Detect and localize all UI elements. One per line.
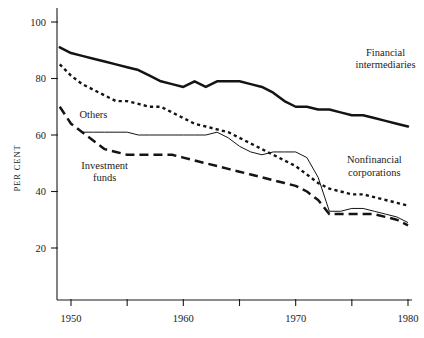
y-axis-ticks: 20406080100: [30, 17, 58, 254]
annotation-line-2: funds: [93, 172, 116, 183]
annotation-line-2: intermediaries: [356, 59, 416, 70]
y-tick-label: 60: [36, 130, 47, 141]
chart-container: 20406080100 1950196019701980 Financialin…: [0, 0, 424, 338]
annotation-line-1: Nonfinancial: [347, 154, 402, 165]
annotation-line-1: Investment: [81, 160, 128, 171]
annotation-line-1: Financial: [366, 47, 405, 58]
data-series-group: [60, 47, 408, 225]
y-tick-label: 80: [36, 73, 47, 84]
line-chart: 20406080100 1950196019701980 Financialin…: [0, 0, 424, 338]
y-tick-label: 40: [36, 186, 47, 197]
y-tick-label: 100: [30, 17, 46, 28]
x-tick-label: 1960: [173, 313, 194, 324]
annotation-line-2: corporations: [348, 167, 401, 178]
y-tick-label: 20: [36, 243, 47, 254]
series-annotation: Nonfinancialcorporations: [347, 154, 402, 178]
x-tick-label: 1950: [61, 313, 82, 324]
x-axis-ticks: 1950196019701980: [61, 299, 419, 324]
series-annotation: Financialintermediaries: [356, 47, 416, 71]
x-tick-label: 1970: [285, 313, 306, 324]
y-axis-title: PER CENT: [12, 144, 22, 191]
annotation-line-1: Others: [79, 109, 107, 120]
series-annotation: Investmentfunds: [81, 160, 128, 184]
series-line-nonfinancial-corporations: [60, 64, 408, 205]
x-tick-label: 1980: [398, 313, 419, 324]
series-annotation: Others: [79, 109, 107, 120]
